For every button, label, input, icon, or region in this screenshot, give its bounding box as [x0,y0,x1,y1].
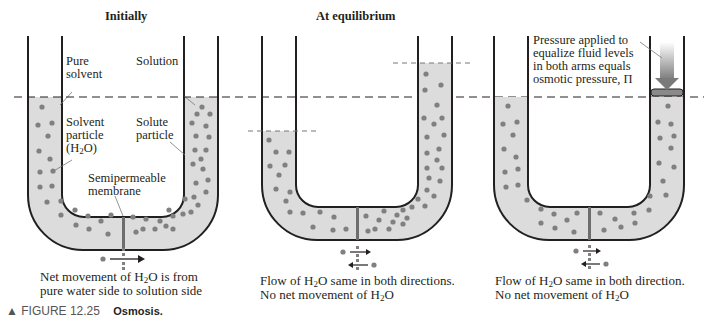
pressure-arrow-icon [655,42,679,90]
u-tube-inner [296,36,418,207]
bidirectional-flow-arrows [573,245,608,269]
label-pressure-applied: Pressure applied to equalize fluid level… [533,34,634,86]
caption-equilibrium: Flow of H2O same in both directions. No … [260,274,455,302]
label-solvent-particle: Solvent particle (H2O) [66,116,104,155]
bidirectional-flow-arrows [340,246,376,270]
label-semipermeable-membrane: Semipermeable membrane [88,172,166,198]
panel-initially [28,36,218,270]
pressure-piston [651,89,683,96]
panel-equilibrium [248,36,474,270]
semipermeable-membrane [588,207,591,240]
caption-initially: Net movement of H2O is from pure water s… [40,270,202,298]
label-solute-particle: Solute particle [136,116,173,142]
semipermeable-membrane [122,217,125,250]
figure-number: FIGURE 12.25 [21,304,100,318]
net-flow-arrow [100,248,145,270]
label-solution: Solution [136,55,178,68]
panel-title-equilibrium: At equilibrium [316,9,396,24]
label-pure-solvent: Pure solvent [66,55,102,81]
semipermeable-membrane [356,207,359,240]
figure-caption: ▲ FIGURE 12.25 Osmosis. [6,304,163,318]
caption-pressure-applied: Flow of H2O same in both direction. No n… [495,274,685,302]
figure-title: Osmosis. [113,305,163,317]
panel-title-initially: Initially [105,9,147,24]
triangle-icon: ▲ [6,304,18,318]
